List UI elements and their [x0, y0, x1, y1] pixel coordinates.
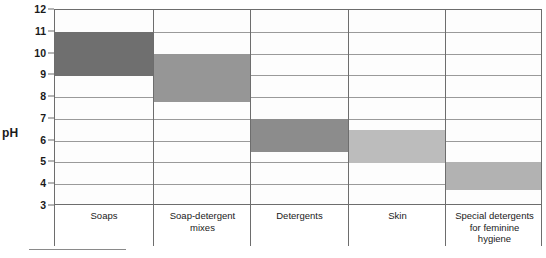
y-tick-label-7: 7 [24, 113, 46, 124]
y-tick-label-8: 8 [24, 91, 46, 102]
y-tick-label-6: 6 [24, 134, 46, 145]
y-tick-mark-12 [48, 9, 54, 10]
y-tick-mark-8 [48, 96, 54, 97]
category-label: Skin [388, 210, 406, 222]
y-tick-mark-4 [48, 183, 54, 184]
bar-range [153, 54, 251, 102]
category-cell: Soaps [55, 205, 153, 246]
y-tick-label-4: 4 [24, 178, 46, 189]
y-tick-mark-7 [48, 117, 54, 118]
y-tick-mark-9 [48, 74, 54, 75]
category-cell: Detergents [250, 205, 348, 246]
plot-area [54, 9, 542, 205]
y-tick-label-11: 11 [24, 26, 46, 37]
bar-range [55, 32, 153, 76]
category-cell: Soap-detergent mixes [153, 205, 251, 246]
category-label: Detergents [276, 210, 322, 222]
y-tick-mark-10 [48, 52, 54, 53]
category-label: Special detergents for feminine hygiene [455, 210, 534, 245]
footnote-rule [29, 249, 126, 250]
bar-range [348, 130, 446, 163]
gridline-8 [55, 97, 541, 98]
column-separator [153, 10, 154, 204]
category-cell: Special detergents for feminine hygiene [445, 205, 543, 246]
category-axis: SoapsSoap-detergent mixesDetergentsSkinS… [54, 205, 542, 246]
category-label: Soap-detergent mixes [170, 210, 236, 233]
column-separator [250, 10, 251, 204]
bar-range [250, 119, 348, 152]
y-tick-mark-11 [48, 30, 54, 31]
y-tick-label-5: 5 [24, 156, 46, 167]
y-tick-mark-3 [48, 205, 54, 206]
y-tick-label-3: 3 [24, 200, 46, 211]
y-tick-label-12: 12 [24, 4, 46, 15]
y-tick-label-9: 9 [24, 69, 46, 80]
ph-range-chart: pH 1211109876543 SoapsSoap-detergent mix… [0, 0, 546, 258]
y-tick-mark-6 [48, 139, 54, 140]
y-tick-label-10: 10 [24, 47, 46, 58]
category-cell: Skin [348, 205, 446, 246]
column-separator [348, 10, 349, 204]
y-tick-mark-5 [48, 161, 54, 162]
bar-range [445, 162, 542, 190]
y-axis-tick-labels: 1211109876543 [24, 0, 46, 210]
category-label: Soaps [91, 210, 118, 222]
column-separator [445, 10, 446, 204]
